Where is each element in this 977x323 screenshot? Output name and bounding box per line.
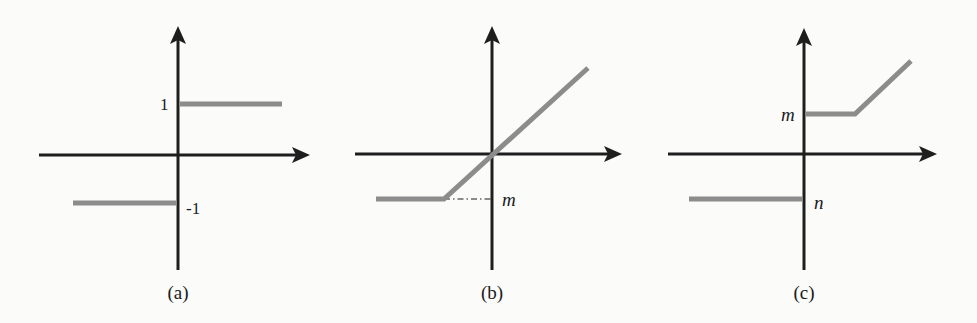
panel-c-label-upper: m [781, 104, 795, 125]
panel-b-label-floor: m [502, 189, 516, 210]
panel-c-caption: (c) [793, 282, 814, 304]
panel-c: m n (c) [668, 28, 937, 304]
panel-a-caption: (a) [167, 282, 188, 304]
panel-a-label-lower: -1 [186, 199, 200, 218]
panel-b: m (b) [355, 26, 622, 304]
panel-a-label-upper: 1 [160, 95, 169, 114]
panel-a: 1 -1 (a) [39, 26, 310, 304]
panel-b-ramp-curve [376, 68, 588, 199]
panel-b-caption: (b) [481, 282, 503, 304]
activation-functions-figure: 1 -1 (a) m (b) m n (c) [0, 0, 977, 323]
panel-c-label-lower: n [814, 192, 824, 213]
panel-c-upper-curve [806, 61, 911, 114]
